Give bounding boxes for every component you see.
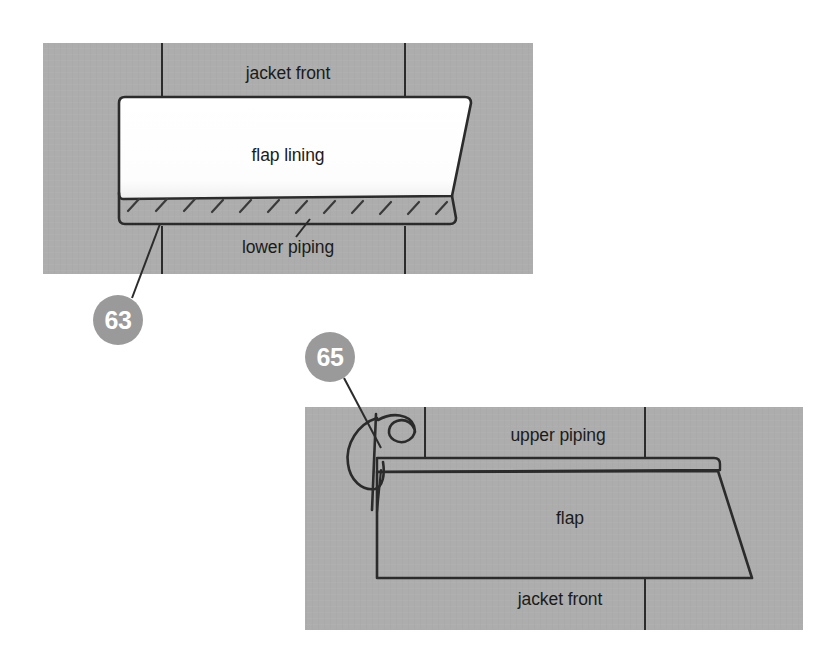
label-lower-piping: lower piping [242, 237, 334, 257]
label-flap: flap [556, 508, 584, 528]
label-upper-piping: upper piping [510, 425, 605, 445]
badge-63-number: 63 [104, 306, 131, 334]
figure-65-group: upper piping flap jacket front 65 [305, 332, 803, 630]
badge-65-number: 65 [316, 343, 344, 371]
label-flap-lining: flap lining [252, 145, 325, 165]
tailoring-diagram-canvas: jacket front flap lining lower piping 63 [0, 0, 840, 659]
figure-63-group: jacket front flap lining lower piping 63 [43, 43, 533, 345]
label-jacket-front-bottom: jacket front [517, 589, 603, 609]
illustration-stage: jacket front flap lining lower piping 63 [0, 0, 840, 659]
label-jacket-front-top: jacket front [245, 63, 331, 83]
lower-piping-strip [119, 196, 456, 224]
